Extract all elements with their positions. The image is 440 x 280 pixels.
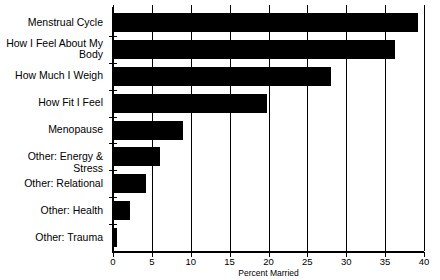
category-label: How I Feel About My Body: [0, 38, 103, 61]
bar: [113, 67, 331, 86]
x-axis-top-tick: [424, 5, 425, 10]
category-label: How Fit I Feel: [0, 97, 103, 109]
x-axis-top-tick: [113, 5, 114, 10]
bar: [113, 121, 183, 140]
category-label: Other: Relational: [0, 178, 103, 190]
x-axis-top-tick: [191, 5, 192, 10]
y-axis-tick: [109, 197, 117, 198]
bar-chart: Menstrual CycleHow I Feel About My BodyH…: [0, 0, 440, 280]
y-axis-tick: [109, 143, 117, 144]
x-axis-tick-label: 5: [149, 256, 154, 267]
plot-area: [113, 9, 424, 251]
bar: [113, 228, 117, 247]
gridline: [424, 9, 425, 251]
category-label: Other: Trauma: [0, 232, 103, 244]
x-axis-tick-label: 10: [185, 256, 196, 267]
category-axis-labels: Menstrual CycleHow I Feel About My BodyH…: [0, 8, 108, 251]
y-axis-tick: [109, 90, 117, 91]
x-axis-tick-label: 30: [341, 256, 352, 267]
bar: [113, 174, 146, 193]
category-label: Menopause: [0, 124, 103, 136]
x-axis-top-tick: [152, 5, 153, 10]
x-axis-top-tick: [346, 5, 347, 10]
x-axis-top-tick: [269, 5, 270, 10]
category-label: Other: Health: [0, 205, 103, 217]
x-axis-title: Percent Married: [113, 268, 424, 278]
x-axis-tick-label: 20: [263, 256, 274, 267]
x-axis-tick-label: 0: [110, 256, 115, 267]
x-axis-top-tick: [307, 5, 308, 10]
bar: [113, 40, 395, 59]
y-axis-tick: [109, 63, 117, 64]
bar: [113, 94, 267, 113]
category-label: Menstrual Cycle: [0, 17, 103, 29]
bar: [113, 147, 160, 166]
x-axis-tick-label: 35: [380, 256, 391, 267]
x-axis-top-tick: [230, 5, 231, 10]
y-axis-tick: [109, 36, 117, 37]
y-axis-tick: [109, 170, 117, 171]
bar: [113, 201, 130, 220]
category-label: Other: Energy & Stress: [0, 151, 103, 174]
category-label: How Much I Weigh: [0, 70, 103, 82]
y-axis-tick: [109, 224, 117, 225]
bar: [113, 13, 418, 32]
y-axis-tick: [109, 117, 117, 118]
x-axis-tick-label: 25: [302, 256, 313, 267]
x-axis-top-tick: [385, 5, 386, 10]
x-axis-tick-label: 15: [224, 256, 235, 267]
x-axis-tick-label: 40: [419, 256, 430, 267]
